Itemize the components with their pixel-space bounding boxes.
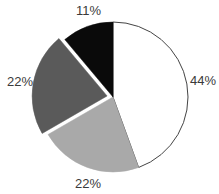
slice-label-dark-gray: 22% [7,75,33,88]
slice-label-white: 44% [190,74,216,87]
slice-label-black: 11% [76,4,101,17]
pie-chart [0,0,219,194]
pie-slices [32,22,188,172]
slice-label-light-gray: 22% [75,177,101,190]
